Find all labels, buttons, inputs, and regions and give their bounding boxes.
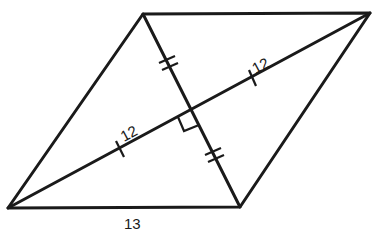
label-upper-half: 12 [249, 54, 272, 77]
rhombus-diagram: 12 12 13 [0, 0, 381, 235]
label-bottom-side: 13 [124, 215, 141, 232]
long-diagonal [8, 13, 370, 208]
short-diagonal [143, 14, 240, 207]
label-lower-half: 12 [117, 122, 140, 145]
